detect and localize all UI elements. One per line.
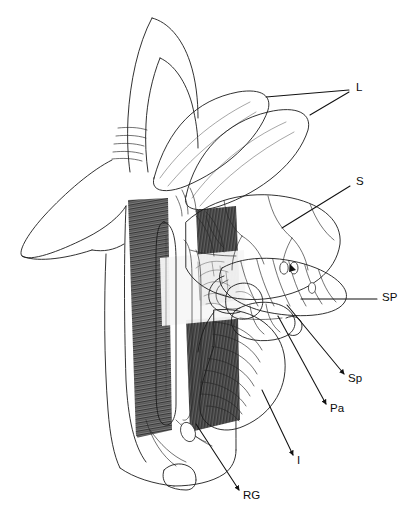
peritoneum-sheet bbox=[160, 250, 246, 326]
spiral-valve-lumen-a bbox=[280, 262, 288, 274]
label-text-L: L bbox=[356, 81, 363, 93]
label-text-Pa: Pa bbox=[330, 402, 345, 414]
label-text-SP: SP bbox=[382, 291, 398, 303]
label-text-Sp: Sp bbox=[348, 372, 362, 384]
illustration-canvas: LSSPSpPaIRG bbox=[0, 0, 406, 511]
body-wall-muscle-lower bbox=[186, 316, 240, 432]
label-text-S: S bbox=[356, 175, 364, 187]
label-text-RG: RG bbox=[243, 489, 260, 501]
spiral-valve-lumen-c bbox=[308, 283, 315, 294]
label-text-I: I bbox=[297, 454, 300, 466]
anatomical-figure: LSSPSpPaIRG bbox=[0, 0, 406, 511]
